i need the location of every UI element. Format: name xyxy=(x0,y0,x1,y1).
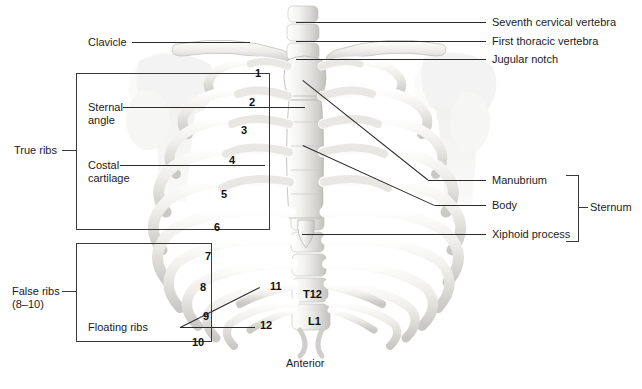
label-jugular-notch: Jugular notch xyxy=(492,53,558,66)
label-costal-cartilage: Costal cartilage xyxy=(88,159,130,185)
label-clavicle: Clavicle xyxy=(88,36,127,49)
bracket-sternum-tick xyxy=(578,207,588,208)
rib-number-1: 1 xyxy=(255,68,261,79)
leader-xiphoid-process xyxy=(302,234,486,235)
label-sternal-angle: Sternal angle xyxy=(88,101,123,127)
rib-number-4: 4 xyxy=(229,155,235,166)
rib-number-11: 11 xyxy=(270,281,282,292)
rib-number-5: 5 xyxy=(221,189,227,200)
leader-manubrium xyxy=(428,180,486,181)
bracket-true-ribs-tick xyxy=(62,150,76,151)
rib-number-6: 6 xyxy=(214,222,220,233)
bracket-false-ribs-tick xyxy=(62,291,76,292)
vertebra-label-l1: L1 xyxy=(308,315,321,327)
orientation-label: Anterior xyxy=(286,357,325,369)
bracket-true-ribs xyxy=(76,73,270,230)
leader-jugular-notch xyxy=(296,59,486,60)
label-seventh-cervical-vertebra: Seventh cervical vertebra xyxy=(492,16,616,29)
leader-first-thoracic-vertebra xyxy=(296,41,486,42)
rib-number-10: 10 xyxy=(192,337,204,348)
label-floating-ribs: Floating ribs xyxy=(88,321,148,334)
leader-seventh-cervical-vertebra xyxy=(296,22,486,23)
label-first-thoracic-vertebra: First thoracic vertebra xyxy=(492,35,598,48)
rib-number-12: 12 xyxy=(260,320,272,331)
label-sternum: Sternum xyxy=(590,201,632,214)
rib-number-2: 2 xyxy=(249,97,255,108)
label-body: Body xyxy=(492,199,517,212)
rib-cage-figure: Clavicle Sternal angle Costal cartilage … xyxy=(0,0,642,389)
rib-number-3: 3 xyxy=(241,125,247,136)
rib-number-7: 7 xyxy=(205,251,211,262)
rib-number-9: 9 xyxy=(203,311,209,322)
leader-clavicle xyxy=(132,42,250,43)
label-manubrium: Manubrium xyxy=(492,174,547,187)
label-false-ribs: False ribs (8–10) xyxy=(12,285,60,311)
label-xiphoid-process: Xiphoid process xyxy=(492,228,570,241)
label-true-ribs: True ribs xyxy=(14,144,57,157)
vertebra-label-t12: T12 xyxy=(303,288,322,300)
leader-body xyxy=(435,205,486,206)
rib-number-8: 8 xyxy=(200,282,206,293)
